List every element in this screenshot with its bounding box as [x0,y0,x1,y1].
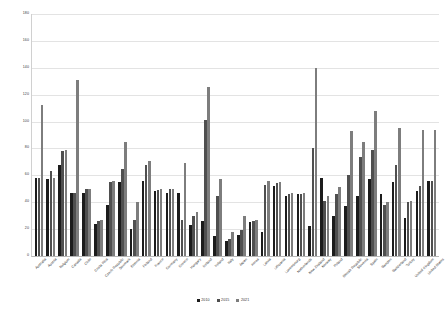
bar [327,196,330,257]
chart-legend: 201020152021 [0,299,446,303]
bar-group [104,14,116,256]
y-axis-tick-label: 120 [23,93,29,97]
legend-swatch-icon [197,299,200,302]
bar [410,201,413,256]
x-axis-label-slot: Lithuania [271,258,283,304]
x-axis-tick-label: United States [427,258,445,276]
x-axis-label-slot: New Zealand [307,258,319,304]
x-axis-label-slot: Switzerland [390,258,402,304]
bar-group [140,14,152,256]
bar-group [414,14,426,256]
x-axis-label-slot: United States [426,258,438,304]
bar [100,220,103,256]
x-axis-label-slot: Spain [366,258,378,304]
bar [267,181,270,256]
y-axis-tick-label: 60 [25,174,29,178]
bar-group [69,14,81,256]
bar [243,216,246,256]
bar-group [307,14,319,256]
bar-group [235,14,247,256]
x-axis-label-slot: France [151,258,163,304]
bar-group [164,14,176,256]
bar [434,130,437,256]
legend-swatch-icon [236,299,239,302]
bar [398,128,401,256]
legend-swatch-icon [217,299,220,302]
legend-entry: 2021 [236,299,249,303]
x-axis-label-slot: Denmark [116,258,128,304]
bar [362,142,365,256]
bar-group [116,14,128,256]
y-axis-tick-label: 0 [27,254,29,258]
x-axis-label-slot: Finland [139,258,151,304]
bar-group [33,14,45,256]
legend-label: 2021 [241,299,249,303]
x-axis-label-slot: United Kingdom [414,258,426,304]
x-axis-label-slot: Australia [32,258,44,304]
legend-entry: 2015 [217,299,230,303]
x-axis-tick-label: Italy [228,258,235,265]
bar-group [176,14,188,256]
x-axis-label-slot: Luxembourg [283,258,295,304]
x-axis-label-slot: Costa Rica [92,258,104,304]
plot-area: 020406080100120140160180 [31,14,439,257]
bars-layer [32,14,439,256]
bar [184,163,187,256]
bar-group [283,14,295,256]
bar [315,68,318,256]
bar-group [57,14,69,256]
bar [112,181,115,256]
bar [291,193,294,256]
bar [219,179,222,256]
x-axis-label-slot: Czech Republic [104,258,116,304]
bar-group [224,14,236,256]
gridline [32,256,439,257]
bar-group [366,14,378,256]
bar-group [212,14,224,256]
bar [76,80,79,256]
bar-group [247,14,259,256]
x-axis-label-slot: Latvia [259,258,271,304]
y-axis-tick-label: 140 [23,66,29,70]
bar [196,212,199,256]
bar [207,87,210,256]
bar [350,131,353,256]
x-axis-label-slot: Norway [319,258,331,304]
bar-group [271,14,283,256]
x-axis-label-slot: Poland [330,258,342,304]
bar [172,189,175,256]
x-axis-label-slot: Germany [163,258,175,304]
legend-label: 2015 [221,299,229,303]
legend-label: 2010 [201,299,209,303]
bar-group [402,14,414,256]
x-axis-label-slot: Hungary [187,258,199,304]
bar [279,182,282,256]
bar-group [378,14,390,256]
x-axis-label-slot: Belgium [56,258,68,304]
y-axis-tick-label: 100 [23,120,29,124]
bar-group [93,14,105,256]
bar [41,105,44,256]
x-axis-labels: AustraliaAustriaBelgiumCanadaChileCosta … [31,258,439,304]
bar-group [426,14,438,256]
bar-group [152,14,164,256]
bar-group [331,14,343,256]
bar-group [295,14,307,256]
bar [148,161,151,256]
y-axis-tick-label: 40 [25,200,29,204]
bar-group [188,14,200,256]
legend-entry: 2010 [197,299,210,303]
y-axis-tick-label: 20 [25,227,29,231]
bar [374,111,377,256]
x-axis-label-slot: Slovenia [354,258,366,304]
x-axis-label-slot: Turkey [402,258,414,304]
bar [124,142,127,256]
x-axis-label-slot: Greece [175,258,187,304]
x-axis-label-slot: Sweden [378,258,390,304]
x-axis-label-slot: Estonia [128,258,140,304]
bar [255,220,258,256]
bar [338,187,341,256]
bar [160,189,163,256]
x-axis-label-slot: Slovak Republic [342,258,354,304]
bar-group [354,14,366,256]
